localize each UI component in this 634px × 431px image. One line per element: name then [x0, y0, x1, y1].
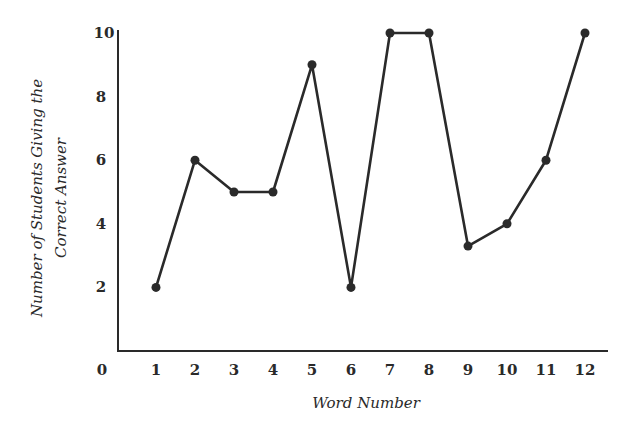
line-chart: 246810 0123456789101112 Word Number Numb…: [0, 0, 634, 431]
x-tick-label: 6: [346, 361, 356, 379]
y-tick-label: 4: [96, 215, 106, 233]
y-tick-label: 6: [96, 151, 106, 169]
data-point-marker: [503, 219, 512, 228]
y-tick-label: 2: [96, 278, 106, 296]
x-tick-label: 8: [424, 361, 434, 379]
y-tick-label: 8: [96, 88, 106, 106]
data-series: [152, 29, 590, 292]
x-tick-label: 10: [497, 361, 518, 379]
x-tick-label: 1: [151, 361, 161, 379]
data-point-marker: [191, 156, 200, 165]
x-tick-label: 12: [575, 361, 596, 379]
x-tick-label: 11: [536, 361, 557, 379]
data-point-marker: [581, 29, 590, 38]
x-tick-label: 4: [268, 361, 278, 379]
x-tick-label: 2: [190, 361, 200, 379]
axes: [117, 30, 608, 351]
y-axis-title-line-2: Correct Answer: [52, 137, 70, 258]
x-tick-labels: 0123456789101112: [97, 361, 596, 379]
x-axis-title: Word Number: [312, 394, 420, 412]
data-point-marker: [464, 242, 473, 251]
data-point-marker: [308, 60, 317, 69]
y-tick-labels: 246810: [94, 24, 115, 296]
data-point-marker: [542, 156, 551, 165]
data-point-marker: [347, 283, 356, 292]
y-axis-title-line-1: Number of Students Giving the: [28, 79, 46, 318]
series-line: [156, 33, 585, 287]
y-axis-title: Number of Students Giving the Correct An…: [28, 79, 70, 318]
data-point-marker: [425, 29, 434, 38]
data-point-marker: [386, 29, 395, 38]
x-tick-label: 3: [229, 361, 239, 379]
data-point-marker: [269, 188, 278, 197]
y-tick-label: 10: [94, 24, 115, 42]
data-point-marker: [230, 188, 239, 197]
x-tick-label: 5: [307, 361, 317, 379]
x-tick-label: 7: [385, 361, 395, 379]
data-point-marker: [152, 283, 161, 292]
x-tick-label: 9: [463, 361, 473, 379]
x-tick-label: 0: [97, 361, 107, 379]
